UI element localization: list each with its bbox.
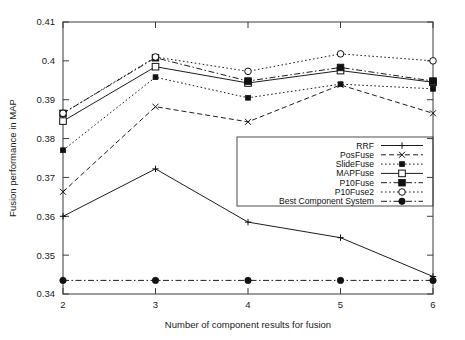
legend-label-6: Best Component System — [279, 196, 374, 206]
series-line — [63, 85, 433, 192]
data-point-marker — [246, 95, 251, 100]
legend-sample-marker-2 — [400, 162, 405, 167]
legend-sample-marker-3 — [399, 170, 406, 177]
data-point-marker — [60, 118, 67, 125]
y-tick-label: 0.36 — [37, 211, 56, 222]
data-point-marker — [152, 277, 158, 283]
data-point-marker — [245, 68, 252, 75]
data-point-marker — [60, 277, 66, 283]
legend-sample-marker-6 — [399, 198, 405, 204]
chart-container: 0.340.350.360.370.380.390.40.41 23456 RR… — [0, 0, 465, 340]
data-point-marker — [152, 54, 159, 61]
x-axis-ticks: 23456 — [60, 22, 435, 310]
x-tick-label: 4 — [245, 299, 250, 310]
data-point-marker — [430, 58, 437, 65]
data-point-marker — [245, 277, 251, 283]
legend-sample-marker-4 — [399, 179, 406, 186]
series-layer — [60, 51, 437, 284]
y-tick-label: 0.41 — [37, 16, 56, 27]
y-tick-label: 0.39 — [37, 94, 56, 105]
data-point-marker — [61, 148, 66, 153]
data-point-marker — [430, 78, 437, 85]
data-point-marker — [337, 277, 343, 283]
y-tick-label: 0.34 — [37, 288, 56, 299]
data-point-marker — [60, 110, 67, 117]
series-rrf — [60, 166, 436, 280]
chart-legend: RRFPosFuseSlideFuseMAPFuseP10FuseP10Fuse… — [237, 137, 433, 206]
data-point-marker — [153, 75, 158, 80]
y-tick-label: 0.38 — [37, 133, 56, 144]
x-axis-label: Number of component results for fusion — [165, 319, 331, 330]
chart-svg: 0.340.350.360.370.380.390.40.41 23456 RR… — [0, 0, 465, 340]
y-axis-label: Fusion performance in MAP — [7, 99, 18, 217]
x-tick-label: 2 — [60, 299, 65, 310]
data-point-marker — [337, 64, 344, 71]
y-tick-label: 0.37 — [37, 172, 56, 183]
data-point-marker — [338, 82, 343, 87]
data-point-marker — [245, 78, 252, 85]
data-point-marker — [431, 86, 436, 91]
x-tick-label: 5 — [338, 299, 343, 310]
legend-sample-marker-5 — [399, 189, 406, 196]
y-tick-label: 0.4 — [42, 55, 55, 66]
x-tick-label: 3 — [153, 299, 158, 310]
x-tick-label: 6 — [430, 299, 435, 310]
y-tick-label: 0.35 — [37, 250, 56, 261]
series-best-component-system — [60, 277, 436, 283]
data-point-marker — [430, 277, 436, 283]
data-point-marker — [152, 63, 159, 70]
data-point-marker — [337, 51, 344, 58]
